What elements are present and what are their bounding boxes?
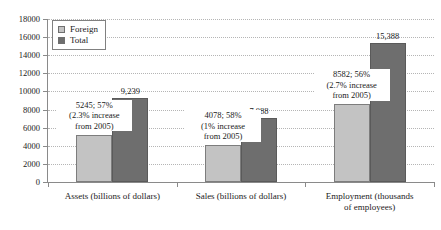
x-axis-tick-mark	[434, 182, 435, 187]
bar-annotation-line: (2.3% increase	[56, 110, 132, 121]
bar-annotation-line: from 2005)	[56, 121, 132, 132]
legend-swatch-foreign-icon	[58, 26, 65, 33]
legend-label-total: Total	[70, 35, 88, 46]
bar-annotation: 5245; 57%(2.3% increasefrom 2005)	[56, 100, 132, 132]
x-axis-tick-mark	[305, 182, 306, 187]
bar-annotation-line: 8582; 56%	[314, 69, 390, 80]
x-axis-category-label-line: of employees)	[300, 202, 440, 213]
bar-annotation-line: 5245; 57%	[56, 100, 132, 111]
x-axis-category-label-line: Employment (thousands	[300, 191, 440, 202]
bar-annotation: 4078; 58%(1% increasefrom 2005)	[185, 110, 261, 142]
x-axis-tick-mark	[177, 182, 178, 187]
y-axis-tick-label: 4000	[0, 142, 40, 151]
bar-value-label: 9,239	[98, 86, 162, 96]
x-axis-category-label: Employment (thousandsof employees)	[300, 191, 440, 213]
bar-foreign	[76, 135, 112, 182]
y-axis-tick-label: 12000	[0, 69, 40, 78]
y-axis-tick-label: 0	[0, 178, 40, 187]
y-axis-tick-label: 2000	[0, 160, 40, 169]
legend-label-foreign: Foreign	[70, 24, 98, 35]
bar-annotation: 8582; 56%(2.7% increasefrom 2005)	[314, 69, 390, 101]
bar-foreign	[205, 145, 241, 182]
x-axis-category-label: Sales (billions of dollars)	[171, 191, 311, 202]
legend-item-foreign: Foreign	[58, 24, 98, 35]
bar-value-label: 15,388	[356, 31, 420, 41]
legend-swatch-total-icon	[58, 37, 65, 44]
x-axis-category-label-line: Sales (billions of dollars)	[171, 191, 311, 202]
y-axis-tick-label: 16000	[0, 33, 40, 42]
bar-annotation-line: 4078; 58%	[185, 110, 261, 121]
y-axis-tick-label: 6000	[0, 124, 40, 133]
bar-foreign	[334, 104, 370, 182]
legend-item-total: Total	[58, 35, 98, 46]
grouped-bar-chart: 0200040006000800010000120001400016000180…	[0, 0, 441, 230]
y-axis-tick-label: 10000	[0, 87, 40, 96]
x-axis-line	[47, 182, 434, 183]
chart-legend: Foreign Total	[52, 20, 106, 50]
x-axis-category-label-line: Assets (billions of dollars)	[42, 191, 182, 202]
y-axis-tick-label: 14000	[0, 51, 40, 60]
y-axis-tick-label: 18000	[0, 15, 40, 24]
y-axis-tick-label: 8000	[0, 106, 40, 115]
x-axis-category-label: Assets (billions of dollars)	[42, 191, 182, 202]
bar-annotation-line: (1% increase	[185, 121, 261, 132]
x-axis-tick-mark	[48, 182, 49, 187]
bar-total	[370, 43, 406, 182]
bar-annotation-line: from 2005)	[314, 90, 390, 101]
bar-annotation-line: from 2005)	[185, 131, 261, 142]
bar-annotation-line: (2.7% increase	[314, 80, 390, 91]
